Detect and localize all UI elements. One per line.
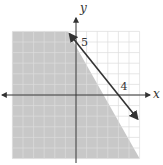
y-intercept-label: 5 [81, 36, 88, 49]
y-axis-label: y [79, 1, 87, 15]
inequality-chart: y x 5 4 [0, 0, 163, 165]
x-intercept-label: 4 [120, 80, 127, 93]
x-axis-label: x [153, 87, 160, 101]
